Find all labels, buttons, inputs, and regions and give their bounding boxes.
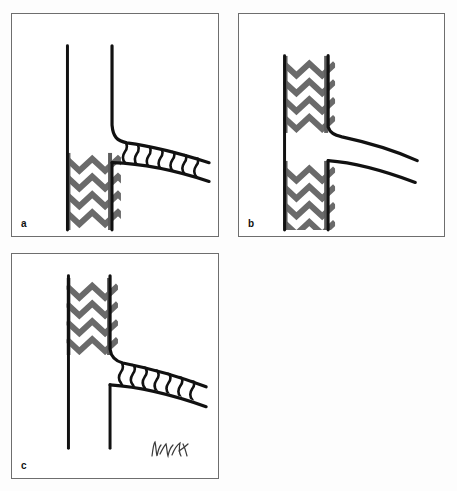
- panel-a-illustration: [12, 14, 218, 236]
- panel-c: c: [11, 253, 219, 479]
- signature-icon: [146, 438, 194, 462]
- panel-label-b: b: [248, 219, 254, 229]
- panel-a: a: [11, 13, 219, 237]
- panel-b: b: [238, 13, 445, 237]
- aorta-wall-right-b-upper: [328, 56, 417, 161]
- panel-b-illustration: [239, 14, 444, 236]
- panel-label-c: c: [21, 461, 27, 471]
- figure-canvas: a: [0, 0, 457, 491]
- branch-bare-b-lower: [328, 161, 415, 183]
- panel-label-a: a: [21, 219, 27, 229]
- aorta-wall-right-c: [110, 276, 206, 387]
